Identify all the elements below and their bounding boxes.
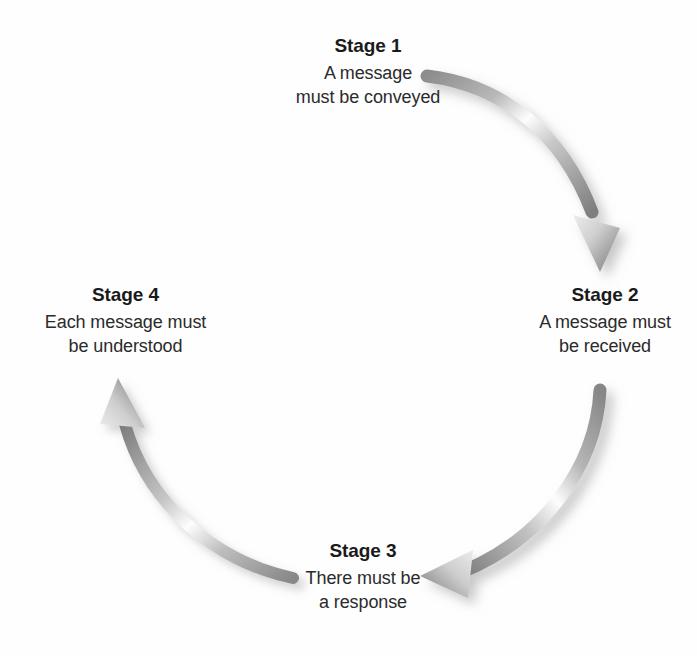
stage-1-line-2: must be conveyed	[248, 86, 488, 110]
stage-3-line-1: There must be	[278, 567, 448, 591]
arrow-stage3-to-stage4	[100, 378, 293, 578]
stage-1-title: Stage 1	[248, 33, 488, 58]
stage-4-line-2: be understood	[18, 335, 233, 359]
stage-2-title: Stage 2	[520, 282, 690, 307]
stage-4-block: Stage 4 Each message must be understood	[18, 282, 233, 359]
stage-3-title: Stage 3	[278, 538, 448, 563]
stage-2-line-2: be received	[520, 335, 690, 359]
stage-3-description: There must be a response	[278, 567, 448, 615]
stage-3-block: Stage 3 There must be a response	[278, 538, 448, 615]
stage-1-description: A message must be conveyed	[248, 62, 488, 110]
stage-3-line-2: a response	[278, 591, 448, 615]
stage-2-line-1: A message must	[520, 311, 690, 335]
stage-2-description: A message must be received	[520, 311, 690, 359]
stage-4-line-1: Each message must	[18, 311, 233, 335]
stage-4-description: Each message must be understood	[18, 311, 233, 359]
stage-4-title: Stage 4	[18, 282, 233, 307]
stage-1-line-1: A message	[248, 62, 488, 86]
stage-2-block: Stage 2 A message must be received	[520, 282, 690, 359]
stage-1-block: Stage 1 A message must be conveyed	[248, 33, 488, 110]
diagram-canvas: Stage 1 A message must be conveyed Stage…	[0, 0, 697, 656]
